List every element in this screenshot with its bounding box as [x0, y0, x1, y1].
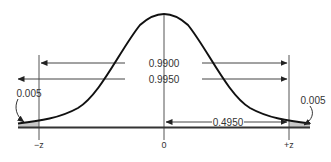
- label-right-tail: 0.005: [300, 95, 325, 106]
- tick-zero: 0: [161, 140, 166, 150]
- normal-curve-chart: 0.9900 0.9950 0.4950 0.005 0.005 −z 0 +z: [0, 0, 331, 162]
- label-left-tail: 0.005: [16, 88, 41, 99]
- label-0990: 0.9900: [149, 58, 180, 69]
- label-0495: 0.4950: [213, 117, 244, 128]
- label-0995: 0.9950: [149, 74, 180, 85]
- left-tail-pointer: [16, 99, 24, 122]
- tick-pos-z: +z: [284, 140, 294, 150]
- tick-neg-z: −z: [34, 140, 44, 150]
